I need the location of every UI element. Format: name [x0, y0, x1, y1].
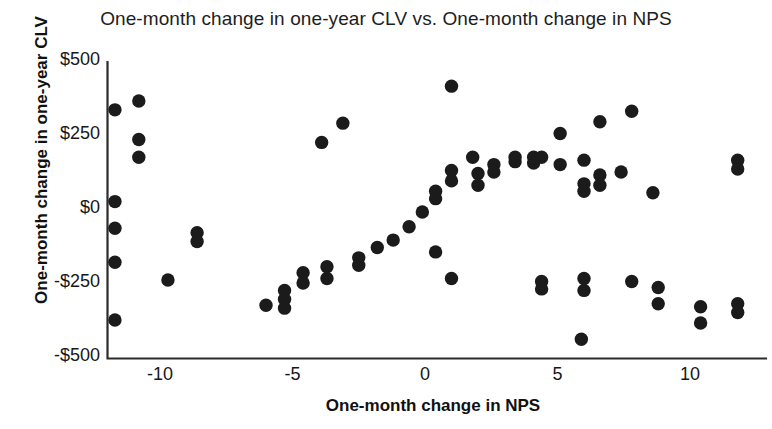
data-point: [320, 272, 333, 285]
data-point: [132, 94, 145, 107]
data-point: [108, 195, 121, 208]
data-point: [471, 167, 484, 180]
data-point: [535, 282, 548, 295]
data-point: [471, 179, 484, 192]
data-point: [190, 235, 203, 248]
data-point: [402, 220, 415, 233]
data-point: [731, 162, 744, 175]
data-point: [652, 281, 665, 294]
data-point: [108, 222, 121, 235]
data-point: [731, 306, 744, 319]
data-point: [445, 174, 458, 187]
data-point: [577, 284, 590, 297]
data-point: [625, 105, 638, 118]
data-point: [278, 301, 291, 314]
data-point: [652, 297, 665, 310]
data-point: [577, 185, 590, 198]
data-point: [508, 155, 521, 168]
data-point: [108, 103, 121, 116]
data-point: [352, 259, 365, 272]
data-point: [577, 272, 590, 285]
data-point: [646, 186, 659, 199]
data-points-group: [108, 79, 744, 345]
data-point: [259, 299, 272, 312]
data-point: [320, 260, 333, 273]
data-point: [429, 245, 442, 258]
data-point: [132, 133, 145, 146]
data-point: [614, 165, 627, 178]
data-point: [577, 153, 590, 166]
data-point: [535, 151, 548, 164]
data-point: [108, 256, 121, 269]
data-point: [445, 79, 458, 92]
data-point: [575, 333, 588, 346]
scatter-chart: One-month change in one-year CLV vs. One…: [0, 0, 772, 429]
data-point: [445, 272, 458, 285]
data-point: [694, 300, 707, 313]
data-point: [315, 136, 328, 149]
data-point: [593, 115, 606, 128]
plot-area: [0, 0, 772, 429]
data-point: [593, 179, 606, 192]
data-point: [416, 205, 429, 218]
data-point: [108, 313, 121, 326]
data-point: [487, 165, 500, 178]
data-point: [466, 151, 479, 164]
axis-lines: [108, 62, 767, 359]
data-point: [296, 276, 309, 289]
data-point: [694, 316, 707, 329]
data-point: [553, 127, 566, 140]
data-point: [371, 241, 384, 254]
data-point: [161, 273, 174, 286]
data-point: [387, 233, 400, 246]
data-point: [132, 151, 145, 164]
data-point: [625, 275, 638, 288]
data-point: [336, 116, 349, 129]
data-point: [429, 185, 442, 198]
data-point: [553, 158, 566, 171]
